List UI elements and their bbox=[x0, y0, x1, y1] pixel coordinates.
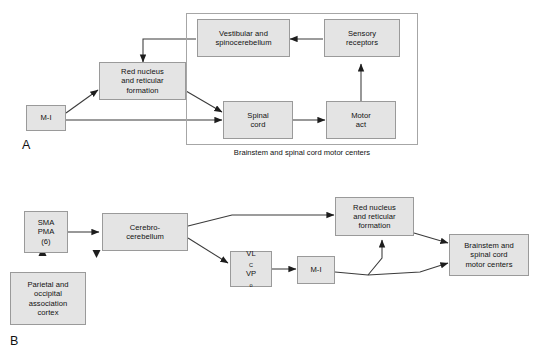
node-a-spinal-cord-line1: Spinal bbox=[247, 111, 268, 120]
node-a-red-nucleus: Red nucleus and reticular formation bbox=[99, 62, 186, 100]
node-b-red-nucleus-line1: Red nucleus bbox=[353, 203, 396, 212]
node-b-thalamus-line1-sub: C bbox=[249, 262, 253, 268]
node-b-parietal-line3: association bbox=[27, 299, 68, 308]
node-b-red-nucleus: Red nucleus and reticular formation bbox=[335, 197, 414, 236]
node-b-m1-label: M-I bbox=[310, 265, 321, 274]
node-b-parietal-line1: Parietal and bbox=[27, 280, 68, 289]
node-a-vestibular-line1: Vestibular and bbox=[215, 29, 271, 38]
node-a-sensory-receptors: Sensory receptors bbox=[324, 19, 400, 57]
node-b-thalamus-line2-sub: o bbox=[249, 282, 252, 288]
panel-a-caption-line1: Brainstem and spinal cord bbox=[234, 148, 322, 157]
node-a-m1-label: M-I bbox=[40, 113, 51, 122]
panel-a-caption-line2: motor centers bbox=[324, 148, 370, 157]
node-a-red-nucleus-line1: Red nucleus bbox=[121, 67, 164, 76]
panel-a-group-caption: Brainstem and spinal cord motor centers bbox=[186, 148, 418, 157]
node-b-red-nucleus-line3: formation bbox=[353, 221, 396, 230]
edge-a-m1-to-rednucleus bbox=[66, 90, 98, 113]
node-b-sma-pma-line3: (6) bbox=[38, 237, 55, 246]
node-a-vestibular-spinocerebellum: Vestibular and spinocerebellum bbox=[197, 19, 290, 57]
edge-b-rednucleus-to-brainstem bbox=[414, 233, 448, 243]
panel-a-letter-text: A bbox=[22, 138, 30, 152]
node-a-red-nucleus-line3: formation bbox=[121, 86, 164, 95]
node-a-motor-act-line2: act bbox=[351, 120, 371, 129]
node-b-brainstem-spinal-cord: Brainstem and spinal cord motor centers bbox=[449, 234, 529, 276]
edge-b-cerebrocerebellum-to-rednucleus bbox=[188, 215, 334, 226]
arrowhead-out-of-cerebrocerebellum bbox=[93, 250, 101, 258]
node-a-motor-act: Motor act bbox=[326, 101, 396, 139]
node-a-motor-act-line1: Motor bbox=[351, 111, 371, 120]
edge-b-m1-to-brainstem bbox=[335, 263, 448, 275]
node-b-thalamus-line2-main: VP bbox=[246, 269, 256, 278]
node-a-spinal-cord: Spinal cord bbox=[223, 101, 293, 139]
node-b-cerebrocerebellum-line1: Cerebro- bbox=[126, 223, 164, 232]
node-a-red-nucleus-line2: and reticular bbox=[121, 76, 164, 85]
edge-b-m1-to-rednucleus bbox=[368, 240, 382, 275]
node-b-parietal-line2: occipital bbox=[27, 289, 68, 298]
figure-motor-control-pathways: M-I Red nucleus and reticular formation … bbox=[0, 0, 541, 364]
node-a-vestibular-line2: spinocerebellum bbox=[215, 38, 271, 47]
node-a-sensory-line2: receptors bbox=[346, 38, 378, 47]
node-b-parietal-occipital-cortex: Parietal and occipital association corte… bbox=[10, 272, 86, 325]
node-b-sma-pma-line2: PMA bbox=[38, 227, 55, 236]
node-b-cerebrocerebellum-line2: cerebellum bbox=[126, 232, 164, 241]
node-a-spinal-cord-line2: cord bbox=[247, 120, 268, 129]
panel-a-letter: A bbox=[22, 138, 30, 152]
edge-b-cerebrocerebellum-to-thalamus bbox=[188, 238, 228, 263]
node-b-thalamus-line1: VLC bbox=[246, 249, 256, 269]
panel-b-letter-text: B bbox=[10, 334, 18, 348]
node-b-sma-pma: SMA PMA (6) bbox=[24, 211, 68, 253]
node-a-m1: M-I bbox=[26, 105, 66, 131]
node-b-red-nucleus-line2: and reticular bbox=[353, 212, 396, 221]
node-b-thalamus-vlc-vpo: VLC VPo bbox=[230, 251, 272, 287]
node-b-cerebrocerebellum: Cerebro- cerebellum bbox=[102, 213, 188, 251]
node-b-thalamus-line1-main: VL bbox=[246, 249, 256, 258]
node-b-parietal-line4: cortex bbox=[27, 308, 68, 317]
node-b-thalamus-line2: VPo bbox=[246, 269, 256, 289]
node-b-sma-pma-line1: SMA bbox=[38, 218, 55, 227]
node-b-brainstem-line2: spinal cord bbox=[464, 250, 514, 259]
node-b-brainstem-line1: Brainstem and bbox=[464, 241, 514, 250]
node-a-sensory-line1: Sensory bbox=[346, 29, 378, 38]
panel-b-letter: B bbox=[10, 334, 18, 348]
node-b-brainstem-line3: motor centers bbox=[464, 260, 514, 269]
node-b-m1: M-I bbox=[297, 256, 335, 284]
